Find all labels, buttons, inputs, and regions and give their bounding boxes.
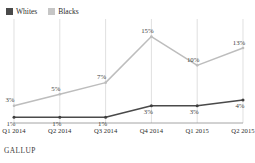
source-attribution: GALLUP: [4, 146, 36, 155]
data-label: 1%: [52, 120, 61, 127]
data-label: 13%: [233, 39, 246, 46]
legend-item-whites: Whites: [6, 8, 37, 16]
data-point: [242, 98, 245, 101]
data-point: [13, 104, 16, 107]
data-label: 10%: [187, 56, 200, 63]
x-tick-label: Q2 2015: [231, 127, 254, 135]
data-label: 5%: [51, 85, 60, 92]
data-point: [196, 104, 199, 107]
gridlines: [14, 19, 243, 123]
series-markers-blacks: [13, 35, 245, 107]
data-point: [58, 116, 61, 119]
chart-legend: Whites Blacks: [6, 6, 79, 17]
data-point: [150, 35, 153, 38]
data-label: 7%: [97, 73, 106, 80]
legend-item-blacks: Blacks: [48, 8, 78, 16]
x-tick-label: Q2 2014: [48, 127, 71, 135]
legend-swatch-whites: [6, 8, 13, 15]
data-point: [104, 81, 107, 84]
x-tick-label: Q1 2014: [2, 127, 25, 135]
x-tick-label: Q3 2014: [94, 127, 117, 135]
series-line-blacks: [14, 37, 243, 106]
data-point: [13, 116, 16, 119]
data-label: 1%: [98, 120, 107, 127]
legend-label-whites: Whites: [16, 8, 37, 16]
data-point: [242, 47, 245, 50]
data-label: 4%: [235, 102, 244, 109]
data-label: 1%: [6, 120, 15, 127]
data-label: 3%: [144, 108, 153, 115]
legend-swatch-blacks: [48, 8, 55, 15]
plot-svg: 3%5%7%15%10%13% 1%1%1%3%3%4%: [0, 19, 255, 132]
series-line-whites: [14, 100, 243, 117]
plot-area: 3%5%7%15%10%13% 1%1%1%3%3%4%: [0, 19, 255, 132]
data-point: [104, 116, 107, 119]
legend-label-blacks: Blacks: [58, 8, 78, 16]
series-markers-whites: [13, 98, 245, 118]
x-tick-label: Q1 2015: [186, 127, 209, 135]
data-point: [59, 93, 62, 96]
data-label: 3%: [5, 96, 14, 103]
x-axis-ticks: Q1 2014Q2 2014Q3 2014Q4 2014Q1 2015Q2 20…: [0, 127, 255, 141]
gallup-line-chart: Whites Blacks 3%5%7%15%10%13% 1%1%1%3%3%…: [0, 0, 255, 163]
series-labels-blacks: 3%5%7%15%10%13%: [5, 27, 245, 103]
data-point: [196, 64, 199, 67]
data-label: 15%: [141, 27, 154, 34]
data-point: [150, 104, 153, 107]
x-tick-label: Q4 2014: [140, 127, 163, 135]
data-label: 3%: [190, 108, 199, 115]
